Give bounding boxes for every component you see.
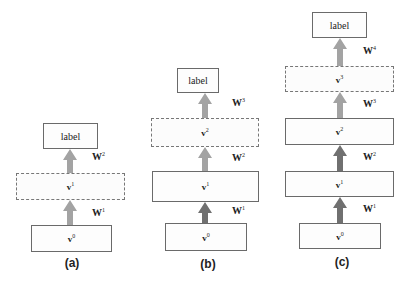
layer-v2-text: v2 <box>336 126 344 137</box>
weight-w2: W2 <box>363 151 376 162</box>
label-box-c: label <box>312 12 367 38</box>
weight-w1: W1 <box>92 207 105 218</box>
weight-w3: W3 <box>232 97 245 108</box>
label-text: label <box>188 75 207 86</box>
layer-v0-text: v0 <box>336 231 344 242</box>
arrow-up-icon <box>333 38 347 66</box>
layer-v1-text: v1 <box>202 181 210 192</box>
layer-v0-text: v0 <box>202 232 210 243</box>
arrow-up-icon <box>333 92 347 118</box>
hidden-layer-v3-dashed: v3 <box>285 66 394 92</box>
layer-v1-text: v1 <box>67 181 75 192</box>
label-box-a: label <box>43 123 98 149</box>
layer-v2-text: v2 <box>201 127 209 138</box>
input-layer-v0: v0 <box>31 225 112 252</box>
layer-v3-text: v3 <box>336 74 344 85</box>
arrow-up-icon <box>198 93 212 118</box>
caption-c: (c) <box>335 255 350 269</box>
hidden-layer-v1: v1 <box>285 171 394 197</box>
hidden-layer-v2-dashed: v2 <box>151 118 259 147</box>
weight-w2: W2 <box>92 151 105 162</box>
weight-w1: W1 <box>232 205 245 216</box>
arrow-up-icon <box>63 200 77 225</box>
hidden-layer-v2: v2 <box>285 118 394 145</box>
caption-a: (a) <box>65 256 80 270</box>
hidden-layer-v1: v1 <box>152 171 259 202</box>
label-text: label <box>330 20 349 31</box>
arrow-up-icon <box>198 147 212 171</box>
label-text: label <box>61 131 80 142</box>
arrow-up-icon <box>333 145 347 171</box>
hidden-layer-v1-dashed: v1 <box>16 173 125 200</box>
arrow-up-icon <box>198 202 212 223</box>
arrow-up-icon <box>333 197 347 223</box>
label-box-b: label <box>177 68 219 93</box>
arrow-up-icon <box>63 149 77 173</box>
weight-w2: W2 <box>232 152 245 163</box>
layer-v0-text: v0 <box>68 233 76 244</box>
weight-w4: W4 <box>363 45 376 56</box>
weight-w3: W3 <box>363 98 376 109</box>
layer-v1-text: v1 <box>336 179 344 190</box>
caption-b: (b) <box>200 257 215 271</box>
input-layer-v0: v0 <box>165 223 247 251</box>
input-layer-v0: v0 <box>299 223 381 249</box>
weight-w1: W1 <box>363 203 376 214</box>
